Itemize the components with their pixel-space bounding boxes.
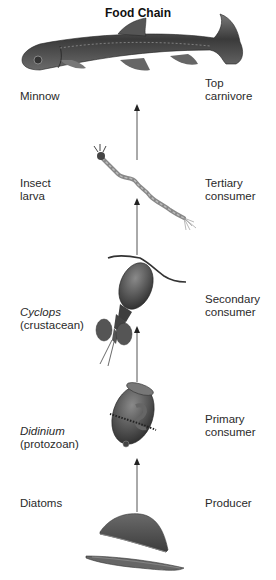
insect-larva-icon [94, 144, 196, 230]
didinium-icon [105, 380, 162, 450]
diatoms-icon [86, 514, 184, 571]
minnow-icon [22, 14, 243, 71]
food-chain-illustration [0, 0, 276, 580]
cyclops-icon [96, 256, 186, 366]
